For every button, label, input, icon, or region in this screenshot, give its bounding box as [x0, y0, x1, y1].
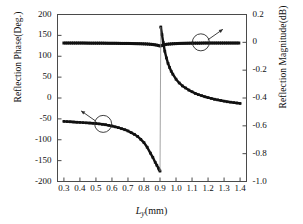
data-point-marker [170, 70, 173, 73]
data-point-marker [130, 131, 133, 134]
phase-wrap-connector [160, 27, 161, 171]
data-point-marker [151, 156, 154, 159]
data-point-marker [120, 127, 123, 130]
data-point-marker [187, 89, 190, 92]
data-point-marker [229, 101, 232, 104]
data-point-marker [236, 102, 239, 105]
x-axis-tick-label: 1.4 [226, 183, 254, 193]
y-axis-left-tick-label: -200 [18, 176, 52, 186]
data-point-marker [149, 152, 152, 155]
data-point-marker [127, 130, 130, 133]
reflection-response-chart: Reflection Phase(Deg.) Reflection Magnit… [0, 0, 303, 224]
series-line [161, 27, 240, 103]
data-point-marker [82, 121, 85, 124]
y-axis-left-tick-label: 200 [18, 9, 52, 19]
data-point-marker [204, 95, 207, 98]
data-point-marker [171, 73, 174, 76]
data-point-marker [181, 85, 184, 88]
y-axis-left-tick-label: 100 [18, 50, 52, 60]
data-point-marker [194, 92, 197, 95]
data-point-marker [136, 135, 139, 138]
x-axis-title-unit: (mm) [145, 205, 168, 216]
data-point-marker [163, 50, 166, 53]
callout-arrow-head [81, 111, 85, 115]
data-point-marker [75, 121, 78, 124]
y-axis-right-tick-label: 0.2 [253, 9, 287, 19]
data-point-marker [184, 87, 187, 90]
data-point-marker [101, 123, 104, 126]
data-point-marker [91, 122, 94, 125]
data-point-marker [213, 98, 216, 101]
data-point-marker [72, 121, 75, 124]
data-point-marker [168, 66, 171, 69]
data-point-marker [162, 41, 165, 44]
data-point-marker [98, 123, 101, 126]
y-axis-left-tick-label: 0 [18, 92, 52, 102]
data-point-marker [85, 121, 88, 124]
series-1 [63, 120, 162, 172]
magnitude-callout [192, 29, 223, 51]
data-point-marker [237, 42, 240, 45]
series-line [64, 121, 160, 171]
y-axis-left-tick-label: 150 [18, 29, 52, 39]
data-point-marker [216, 99, 219, 102]
y-axis-right-tick-label: 0 [253, 36, 287, 46]
x-axis-title: Ly(mm) [0, 205, 303, 218]
data-point-marker [63, 120, 66, 123]
data-point-marker [139, 138, 142, 141]
data-point-marker [117, 126, 120, 129]
data-point-marker [200, 94, 203, 97]
data-point-marker [175, 78, 178, 81]
data-point-marker [191, 90, 194, 93]
data-point-marker [123, 128, 126, 131]
data-point-marker [146, 146, 149, 149]
data-point-marker [207, 96, 210, 99]
data-point-marker [155, 164, 158, 167]
data-point-marker [79, 121, 82, 124]
y-axis-right-tick-label: -1.0 [253, 176, 287, 186]
data-point-marker [197, 93, 200, 96]
data-point-marker [232, 101, 235, 104]
y-axis-left-title: Reflection Phase(Deg.) [13, 0, 23, 127]
y-axis-right-tick-label: -0.4 [253, 92, 287, 102]
data-point-marker [154, 161, 157, 164]
y-axis-left-tick-label: -50 [18, 113, 52, 123]
data-point-marker [223, 100, 226, 103]
y-axis-right-tick-label: -0.6 [253, 120, 287, 130]
data-point-marker [239, 102, 242, 105]
y-axis-right-tick-label: -0.2 [253, 64, 287, 74]
data-point-marker [69, 120, 72, 123]
data-point-marker [143, 141, 146, 144]
callout-arrow-head [219, 29, 223, 33]
y-axis-right-tick-label: -0.8 [253, 148, 287, 158]
data-point-marker [226, 100, 229, 103]
data-point-marker [66, 120, 69, 123]
data-point-marker [178, 82, 181, 85]
data-point-marker [133, 133, 136, 136]
data-point-marker [88, 122, 91, 125]
data-point-marker [167, 62, 170, 65]
series-magnitude-markers [62, 42, 240, 48]
y-axis-left-tick-label: -150 [18, 155, 52, 165]
y-axis-left-tick-label: -100 [18, 134, 52, 144]
data-point-marker [114, 125, 117, 128]
data-point-marker [220, 99, 223, 102]
data-point-marker [104, 123, 107, 126]
series-2 [159, 26, 241, 105]
data-point-marker [165, 57, 168, 60]
data-point-marker [107, 124, 110, 127]
data-point-marker [210, 97, 213, 100]
y-axis-left-tick-label: 50 [18, 71, 52, 81]
